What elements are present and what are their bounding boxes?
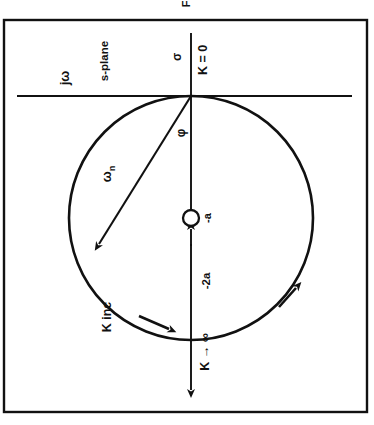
natural-frequency-symbol: ω xyxy=(99,171,114,182)
locus-direction-arrow-left xyxy=(139,316,169,329)
natural-frequency-subscript: n xyxy=(107,166,117,172)
s-plane-label: s-plane xyxy=(98,41,110,81)
imaginary-axis-label: jω xyxy=(57,71,72,86)
pole-center-marker xyxy=(183,210,199,226)
natural-frequency-label: ωn xyxy=(99,166,117,183)
root-locus-svg xyxy=(0,0,374,425)
gain-increasing-label: K inc xyxy=(100,302,114,333)
minus-two-a-label: -2a xyxy=(200,273,212,290)
gain-infinity-label: K → ∞ xyxy=(198,333,212,370)
real-axis-label: σ xyxy=(170,53,184,61)
phi-angle-label: φ xyxy=(174,129,188,138)
pole-center-label: -a xyxy=(201,213,213,223)
figure-root: F s-plane jω σ K = 0 xyxy=(0,0,374,425)
gain-zero-label: K = 0 xyxy=(196,45,210,75)
